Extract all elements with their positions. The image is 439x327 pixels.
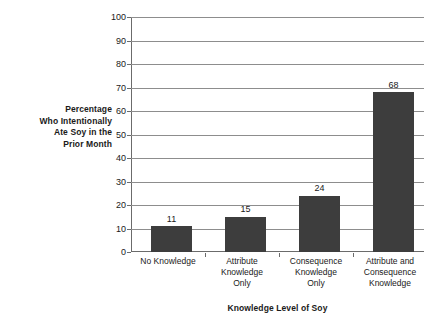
- bar-value-consequence-knowledge-only: 24: [279, 184, 360, 193]
- x-category-label-line: Consequence: [276, 256, 356, 267]
- bar-no-knowledge: [151, 226, 192, 252]
- y-tick-label-20: 20: [96, 201, 126, 210]
- y-tick-label-40: 40: [96, 154, 126, 163]
- y-tick-label-90: 90: [96, 37, 126, 46]
- bar-consequence-knowledge-only: [299, 196, 340, 252]
- x-category-label-no-knowledge: No Knowledge: [128, 256, 208, 267]
- gridline-100: [131, 17, 424, 18]
- x-category-label-attribute-knowledge-only: Attribute Knowledge Only: [202, 256, 282, 290]
- x-category-label-line: Attribute: [202, 256, 282, 267]
- x-category-label-line: Attribute and: [350, 256, 430, 267]
- bar-chart-figure: Percentage Who Intentionally Ate Soy in …: [0, 0, 439, 327]
- y-tick-label-60: 60: [96, 107, 126, 116]
- gridline-80: [131, 64, 424, 65]
- x-category-label-line: Knowledge: [350, 278, 430, 289]
- bar-value-no-knowledge: 11: [131, 215, 212, 224]
- y-tick-label-100: 100: [96, 13, 126, 22]
- x-category-label-line: Knowledge: [202, 267, 282, 278]
- x-category-label-consequence-knowledge-only: Consequence Knowledge Only: [276, 256, 356, 290]
- bar-value-attribute-and-consequence-knowledge: 68: [353, 81, 434, 90]
- y-tick-label-70: 70: [96, 84, 126, 93]
- gridline-90: [131, 41, 424, 42]
- x-category-label-line: Consequence: [350, 267, 430, 278]
- x-axis-title: Knowledge Level of Soy: [131, 303, 424, 313]
- x-category-label-line: No Knowledge: [128, 256, 208, 267]
- y-tick-label-0: 0: [96, 248, 126, 257]
- y-tick-mark-0: [127, 252, 131, 253]
- bar-value-attribute-knowledge-only: 15: [205, 205, 286, 214]
- bar-attribute-and-consequence-knowledge: [373, 92, 414, 252]
- x-category-label-attribute-and-consequence-knowledge: Attribute and Consequence Knowledge: [350, 256, 430, 290]
- bar-attribute-knowledge-only: [225, 217, 266, 252]
- y-axis-title-line-2: Who Intentionally: [14, 116, 112, 128]
- x-category-label-line: Only: [276, 278, 356, 289]
- y-axis-title-line-4: Prior Month: [14, 139, 112, 151]
- x-category-label-line: Only: [202, 278, 282, 289]
- y-tick-label-80: 80: [96, 60, 126, 69]
- y-tick-label-30: 30: [96, 178, 126, 187]
- y-tick-label-10: 10: [96, 225, 126, 234]
- x-category-label-line: Knowledge: [276, 267, 356, 278]
- y-tick-label-50: 50: [96, 131, 126, 140]
